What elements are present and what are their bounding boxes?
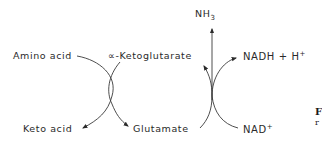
label-keto-acid: Keto acid <box>23 124 72 134</box>
nadh-superscript: + <box>300 50 306 58</box>
label-glutamate: Glutamate <box>133 124 189 134</box>
label-amino-acid: Amino acid <box>13 51 72 61</box>
nh3-text: NH <box>195 8 210 19</box>
nad-text: NAD <box>243 124 267 135</box>
nh3-subscript: 3 <box>210 14 215 22</box>
arrow-nad-to-nadh <box>212 58 238 128</box>
label-nad: NAD+ <box>243 124 273 135</box>
caption-fragment-line2: r <box>315 119 319 127</box>
arrow-akg-to-glutamate <box>109 62 128 126</box>
label-nadh: NADH + H+ <box>243 51 306 62</box>
caption-fragment-line1: F <box>315 107 322 117</box>
arrow-glutamate-to-akg <box>200 66 212 128</box>
nad-superscript: + <box>267 123 273 131</box>
label-nh3: NH3 <box>195 9 216 22</box>
label-alpha-ketoglutarate: ∝-Ketoglutarate <box>108 51 192 61</box>
arrow-amino-to-keto <box>77 56 113 128</box>
nadh-text: NADH + H <box>243 51 300 62</box>
